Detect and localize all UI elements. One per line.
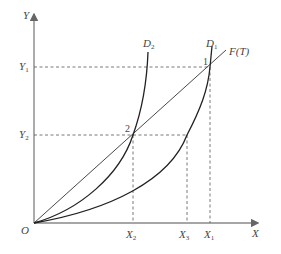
diagram-canvas	[0, 0, 281, 254]
y-axis-label: Y	[23, 10, 29, 21]
d2-label: D2	[143, 38, 154, 51]
d1-curve	[34, 46, 212, 223]
d2-curve	[34, 52, 148, 223]
point-2-label: 2	[125, 124, 130, 134]
origin-label: O	[21, 225, 29, 236]
point-1-label: 1	[203, 57, 208, 67]
x2-label: X2	[126, 229, 136, 242]
x1-label: X1	[204, 229, 214, 242]
ft-line	[34, 50, 226, 223]
y1-label: Y1	[19, 61, 29, 74]
d1-label: D1	[206, 38, 217, 51]
x-axis-label: X	[252, 228, 259, 239]
x3-label: X3	[179, 229, 189, 242]
ft-label: F(T)	[229, 46, 249, 57]
y2-label: Y2	[19, 129, 29, 142]
